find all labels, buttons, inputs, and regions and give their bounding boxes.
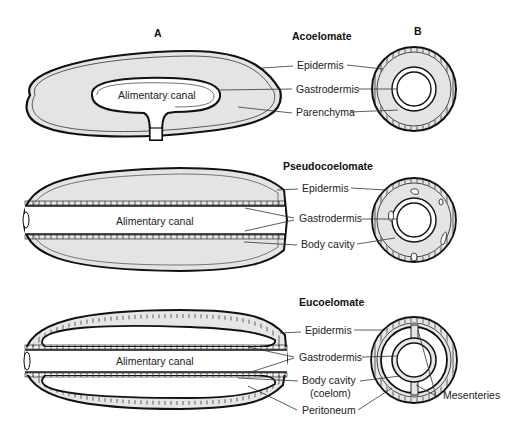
label-gastrodermis: Gastrodermis — [299, 212, 362, 224]
label-body-cavity: Body cavity — [302, 374, 356, 386]
pseudocoelomate-panel: Pseudocoelomate Alimentary canal Epid — [23, 160, 456, 271]
label-gastrodermis: Gastrodermis — [299, 351, 362, 363]
label-epidermis: Epidermis — [297, 59, 344, 71]
acoelomate-panel: Acoelomate Alimentary canal Epidermis Ga… — [27, 30, 456, 140]
acoelomate-longitudinal: Alimentary canal — [27, 51, 281, 140]
panel-title: Acoelomate — [292, 30, 352, 42]
eucoelomate-panel: Eucoelomate Alimentary canal E — [24, 296, 500, 416]
label-peritoneum: Peritoneum — [302, 404, 356, 416]
canal-label: Alimentary canal — [116, 355, 194, 367]
label-epidermis: Epidermis — [302, 182, 349, 194]
panel-title: Eucoelomate — [299, 296, 365, 308]
column-a-label: A — [154, 27, 162, 39]
label-parenchyma: Parenchyma — [296, 106, 355, 118]
body-plan-diagram: A B Acoelomate Alimentary canal Epidermi… — [0, 0, 517, 426]
label-gastrodermis: Gastrodermis — [296, 83, 359, 95]
label-body-cavity: Body cavity — [301, 238, 355, 250]
canal-label: Alimentary canal — [116, 215, 194, 227]
panel-title: Pseudocoelomate — [283, 160, 373, 172]
label-coelom: (coelom) — [310, 387, 351, 399]
pseudocoelomate-cross-section — [372, 178, 456, 262]
eucoelomate-longitudinal: Alimentary canal — [24, 310, 287, 409]
label-epidermis: Epidermis — [305, 324, 352, 336]
column-b-label: B — [414, 25, 422, 37]
pseudocoelomate-longitudinal: Alimentary canal — [23, 168, 287, 271]
label-mesenteries: Mesenteries — [443, 389, 500, 401]
canal-label: Alimentary canal — [118, 89, 196, 101]
